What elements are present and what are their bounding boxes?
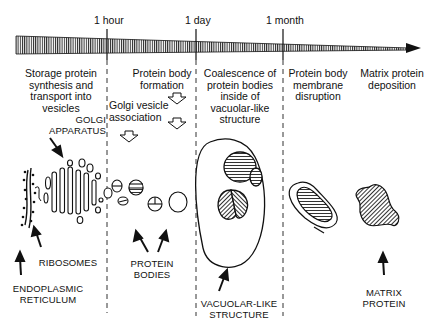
tick-1-month: 1 month [266, 14, 304, 26]
tick-1-day: 1 day [185, 14, 211, 26]
stage-synthesis: Storage protein synthesis and transport … [16, 68, 106, 114]
stage-membrane-disruption: Protein body membrane disruption [286, 68, 350, 103]
golgi-apparatus [44, 159, 103, 224]
stage-golgi-vesicle-association: Golgi vesicle association [109, 100, 171, 123]
stage-matrix-deposition: Matrix protein deposition [352, 68, 432, 91]
matrix-protein-mass [356, 185, 399, 226]
label-golgi-apparatus: GOLGI APPARATUS [40, 114, 106, 136]
stage-protein-body-formation: Protein body formation [130, 68, 194, 91]
label-protein-bodies: PROTEIN BODIES [128, 258, 176, 280]
label-ribosomes: RIBOSOMES [38, 257, 98, 268]
vacuolar-structure [196, 139, 265, 267]
tick-1-hour: 1 hour [94, 14, 124, 26]
timeline-bar [16, 36, 421, 54]
protein-body-vesicles [104, 180, 187, 212]
disrupted-protein-body [289, 182, 337, 233]
stage-coalescence: Coalescence of protein bodies inside of … [198, 68, 282, 126]
label-vacuolar-like-structure: VACUOLAR-LIKE STRUCTURE [197, 298, 281, 320]
label-matrix-protein: MATRIX PROTEIN [360, 287, 408, 309]
label-endoplasmic-reticulum: ENDOPLASMIC RETICULUM [10, 283, 86, 305]
er-ribosomes [21, 168, 41, 228]
